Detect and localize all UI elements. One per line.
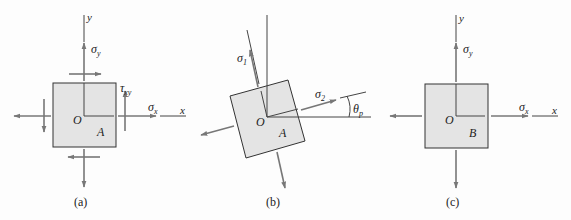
theta-arc-b <box>347 96 350 117</box>
sigma-1-arrow-top-b <box>250 50 258 87</box>
sigma-x-label-a: σx <box>148 100 158 116</box>
stress-element-figure: y x σy σx τxy O A (a) σ1 σ2 θp O A (b) <box>0 0 571 220</box>
caption-b: (b) <box>266 195 280 209</box>
sigma-2-arrow-left-b <box>201 126 234 135</box>
sigma-y-label-c: σy <box>463 42 473 58</box>
rotated-axis-1-b <box>247 30 259 84</box>
y-axis-label-a: y <box>86 11 92 23</box>
y-axis-label-c: y <box>458 12 464 24</box>
sigma-1-arrow-bottom-b <box>277 152 285 188</box>
panel-b: σ1 σ2 θp O A (b) <box>201 15 371 209</box>
sigma-x-label-c: σx <box>519 100 529 116</box>
sigma-2-label-b: σ2 <box>315 87 325 103</box>
x-axis-label-a: x <box>179 104 185 116</box>
panel-c: y x σy σx O B (c) <box>390 12 558 209</box>
rotated-axis-2-b <box>340 92 366 98</box>
theta-p-label-b: θp <box>353 102 363 118</box>
sigma-2-arrow-right-b <box>301 100 336 110</box>
sigma-1-label-b: σ1 <box>237 51 247 67</box>
point-label-b: A <box>278 126 287 140</box>
caption-c: (c) <box>446 195 459 209</box>
caption-a: (a) <box>74 195 87 209</box>
figure-svg: y x σy σx τxy O A (a) σ1 σ2 θp O A (b) <box>0 0 571 220</box>
panel-a: y x σy σx τxy O A (a) <box>14 11 186 209</box>
point-label-c: B <box>469 126 477 140</box>
sigma-y-label-a: σy <box>91 42 101 58</box>
origin-label-b: O <box>256 115 265 129</box>
origin-label-c: O <box>445 113 454 127</box>
tau-xy-label-a: τxy <box>120 81 132 97</box>
x-axis-label-c: x <box>551 104 557 116</box>
point-label-a: A <box>96 125 105 139</box>
origin-label-a: O <box>73 113 82 127</box>
